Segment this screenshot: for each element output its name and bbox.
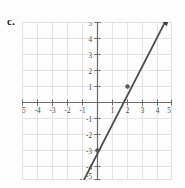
coordinate-graph: -5 -4 -3 -2 -1 1 2 3 4 5 5 4 3 2 1 -1 -2… <box>22 22 172 180</box>
x-tick-label: 2 <box>126 107 130 115</box>
x-tick-label: 1 <box>111 107 115 115</box>
y-tick-label: -1 <box>86 116 92 124</box>
y-tick-label: -2 <box>86 132 92 140</box>
y-tick-label: 4 <box>88 36 92 44</box>
x-tick-label: -5 <box>22 107 26 115</box>
y-tick-label: 5 <box>88 22 92 28</box>
x-tick-label: 5 <box>167 107 171 115</box>
y-tick-label: 2 <box>88 68 92 76</box>
x-tick-label: 4 <box>156 107 160 115</box>
x-tick-label: -2 <box>65 107 71 115</box>
graph-svg: -5 -4 -3 -2 -1 1 2 3 4 5 5 4 3 2 1 -1 -2… <box>22 22 172 180</box>
y-tick-label: 1 <box>88 84 92 92</box>
x-tick-label: -4 <box>35 107 41 115</box>
x-tick-label: 3 <box>141 107 145 115</box>
x-tick-label: -1 <box>80 107 86 115</box>
y-tick-label: -3 <box>86 148 92 156</box>
marked-point-2-1 <box>125 84 129 88</box>
x-tick-label: -3 <box>50 107 56 115</box>
problem-letter-label: c. <box>7 16 15 27</box>
worksheet-problem-panel: c. <box>0 0 185 188</box>
y-tick-label: 3 <box>88 52 92 60</box>
marked-point-y-intercept <box>95 148 99 152</box>
